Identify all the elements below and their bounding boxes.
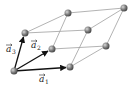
- svg-text:a: a: [6, 44, 11, 54]
- svg-text:a: a: [39, 74, 44, 84]
- vector-a1: [14, 68, 66, 72]
- lattice-points: [11, 5, 128, 75]
- label-a3: a 3: [6, 44, 16, 55]
- svg-text:3: 3: [12, 48, 16, 55]
- label-a2: a 2: [31, 40, 41, 51]
- cell-edges: [25, 8, 124, 67]
- label-a1: a 1: [39, 74, 49, 85]
- svg-text:a: a: [31, 40, 36, 50]
- svg-text:1: 1: [45, 78, 49, 85]
- lattice-diagram: a 1 a 2 a 3: [0, 0, 132, 89]
- svg-text:2: 2: [37, 44, 41, 51]
- primitive-vectors: [14, 37, 66, 71]
